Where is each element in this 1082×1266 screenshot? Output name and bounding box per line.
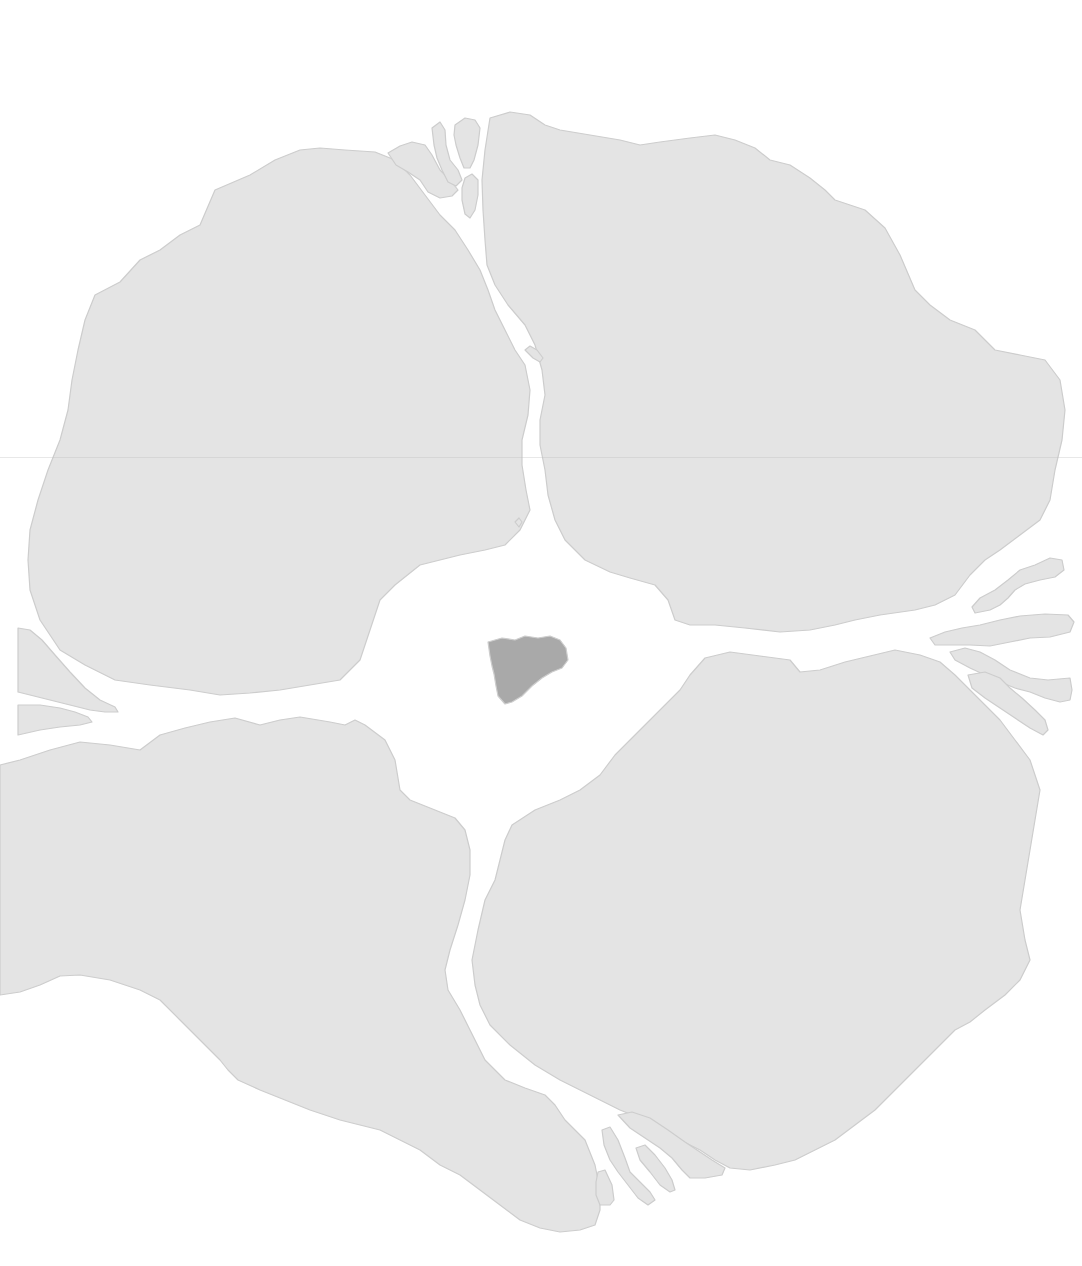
paper-fold-line (0, 457, 1082, 458)
map-canvas (0, 0, 1082, 1266)
